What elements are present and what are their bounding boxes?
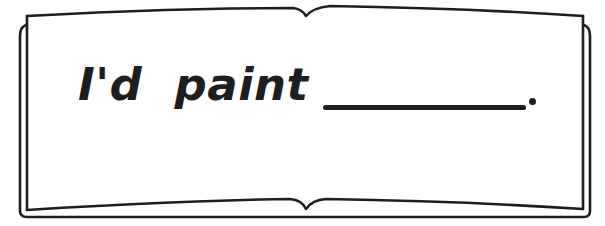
page-bottom-edge (27, 199, 583, 210)
cover-outline (20, 25, 590, 217)
prompt-text: I'd paint (78, 58, 309, 111)
open-book-outline (0, 0, 605, 226)
answer-blank-line[interactable] (323, 105, 526, 110)
period-mark (529, 98, 536, 105)
page-top-edge (27, 6, 583, 16)
